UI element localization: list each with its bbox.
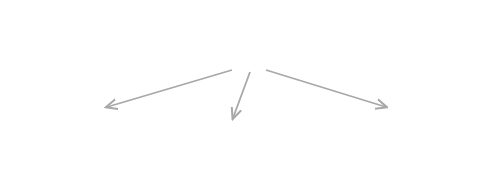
arrow-to-doc-D: [266, 70, 386, 107]
arrow-to-doc-1: [107, 70, 232, 107]
arrow-to-doc-2: [233, 72, 250, 118]
connector-arrows: [107, 70, 386, 118]
topic-model-diagram: [0, 0, 492, 195]
